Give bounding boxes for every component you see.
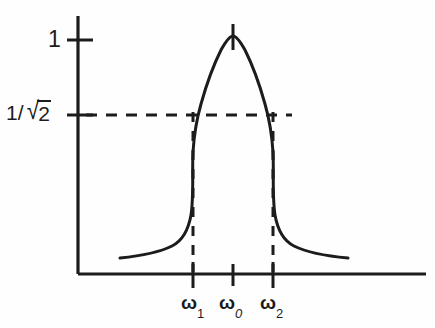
- omega-glyph: ω: [260, 292, 276, 313]
- half-power-slash: /: [18, 102, 24, 123]
- y-tick-label-one: 1: [48, 28, 61, 51]
- omega0-subscript: 0: [235, 306, 242, 321]
- radical-sign: √: [26, 100, 38, 121]
- half-power-numerator: 1: [6, 102, 18, 123]
- omega-glyph: ω: [219, 292, 235, 313]
- response-curve: [120, 36, 348, 258]
- y-tick-label-half-power: 1 / √ 2: [6, 100, 51, 125]
- x-tick-label-omega2: ω2: [260, 292, 283, 317]
- radicand: 2: [37, 100, 51, 125]
- x-tick-label-omega1: ω1: [181, 292, 204, 317]
- plot-canvas: [0, 0, 435, 328]
- square-root-icon: √ 2: [25, 100, 51, 125]
- x-tick-label-omega0: ω0: [219, 292, 242, 317]
- omega-glyph: ω: [181, 292, 197, 313]
- omega2-subscript: 2: [276, 306, 283, 321]
- omega1-subscript: 1: [197, 306, 204, 321]
- resonance-curve-figure: 1 1 / √ 2 ω1 ω0 ω2: [0, 0, 435, 328]
